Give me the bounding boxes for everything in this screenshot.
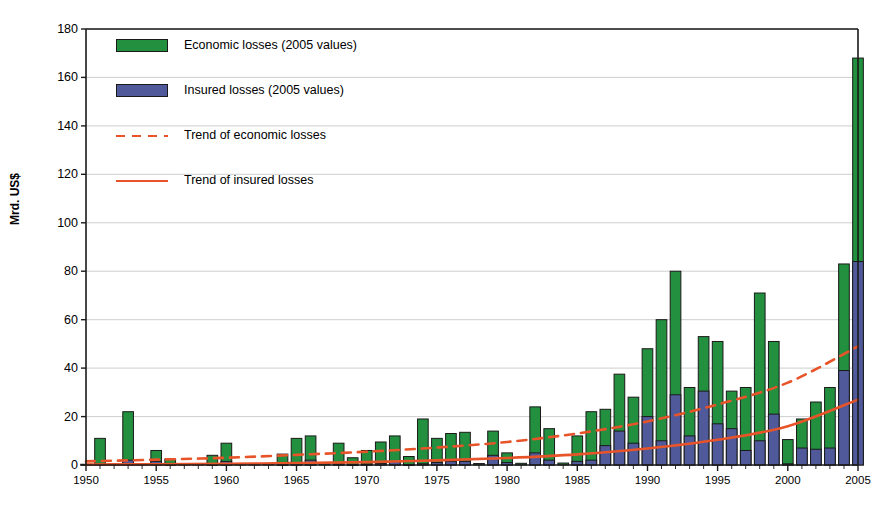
legend-swatch-icon xyxy=(116,39,168,52)
bar-insured-2004 xyxy=(839,371,850,465)
bar-insured-1990 xyxy=(642,417,653,465)
legend-solid-line-icon xyxy=(116,174,168,187)
bar-insured-1996 xyxy=(726,429,737,465)
bar-insured-1997 xyxy=(740,450,751,465)
bar-insured-1999 xyxy=(768,414,779,465)
bar-economic-1985 xyxy=(572,436,583,465)
legend-item-3: Trend of insured losses xyxy=(116,173,313,187)
bar-insured-1979 xyxy=(488,455,499,465)
x-tick-label-2000: 2000 xyxy=(775,474,801,486)
legend-swatch-icon xyxy=(116,84,168,97)
chart-canvas xyxy=(0,0,875,521)
x-tick-label-1970: 1970 xyxy=(354,474,380,486)
x-tick-label-1950: 1950 xyxy=(73,474,99,486)
bar-economic-2000 xyxy=(782,440,793,465)
legend-label: Insured losses (2005 values) xyxy=(184,83,344,97)
chart-figure: Mrd. US$ 020406080100120140160180 195019… xyxy=(0,0,875,521)
x-tick-label-1975: 1975 xyxy=(424,474,450,486)
bar-economic-1986 xyxy=(586,412,597,465)
legend-item-1: Insured losses (2005 values) xyxy=(116,83,344,97)
bar-insured-2001 xyxy=(797,448,808,465)
bar-insured-1987 xyxy=(600,446,611,465)
plot-area: Mrd. US$ 020406080100120140160180 195019… xyxy=(0,0,875,521)
legend-label: Trend of insured losses xyxy=(184,173,313,187)
x-tick-label-1980: 1980 xyxy=(494,474,520,486)
x-tick-label-1955: 1955 xyxy=(143,474,169,486)
x-tick-label-1990: 1990 xyxy=(635,474,661,486)
bar-insured-1994 xyxy=(698,391,709,465)
bar-economic-1998 xyxy=(754,293,765,465)
x-tick-label-1985: 1985 xyxy=(564,474,590,486)
x-tick-label-2005: 2005 xyxy=(845,474,871,486)
legend-item-2: Trend of economic losses xyxy=(116,128,326,142)
legend-label: Economic losses (2005 values) xyxy=(184,38,357,52)
legend-dashed-line-icon xyxy=(116,129,168,142)
bar-insured-1988 xyxy=(614,431,625,465)
bar-economic-1983 xyxy=(544,429,555,465)
bar-economic-1965 xyxy=(291,438,302,465)
x-tick-label-1995: 1995 xyxy=(705,474,731,486)
bar-insured-1995 xyxy=(712,424,723,465)
bar-insured-1989 xyxy=(628,443,639,465)
bar-insured-1982 xyxy=(530,453,541,465)
bar-insured-1998 xyxy=(754,441,765,465)
bar-insured-2003 xyxy=(825,448,836,465)
legend-item-0: Economic losses (2005 values) xyxy=(116,38,357,52)
bar-insured-1991 xyxy=(656,441,667,465)
bar-insured-1993 xyxy=(684,436,695,465)
bar-economic-1953 xyxy=(123,412,134,465)
bar-economic-1974 xyxy=(418,419,429,465)
x-tick-label-1965: 1965 xyxy=(284,474,310,486)
bar-insured-1992 xyxy=(670,395,681,465)
bar-insured-2002 xyxy=(811,449,822,465)
x-tick-label-1960: 1960 xyxy=(214,474,240,486)
legend-label: Trend of economic losses xyxy=(184,128,326,142)
